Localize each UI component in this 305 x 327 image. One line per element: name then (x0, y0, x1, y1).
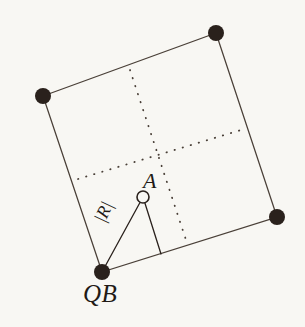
corner-marker-bottom-left-qb (94, 264, 110, 280)
geometry-figure: QB A |R| (0, 0, 305, 327)
corner-marker-top-left (35, 88, 51, 104)
drop-segment (143, 197, 161, 254)
corner-marker-top-right (208, 25, 224, 41)
dotted-vertical-line (130, 70, 187, 243)
square-outline (43, 33, 277, 272)
figure-canvas (0, 0, 305, 327)
label-point-a: A (143, 170, 156, 192)
corner-marker-bottom-right (269, 209, 285, 225)
dotted-horizontal-line (78, 130, 241, 179)
label-corner-qb: QB (83, 281, 117, 306)
